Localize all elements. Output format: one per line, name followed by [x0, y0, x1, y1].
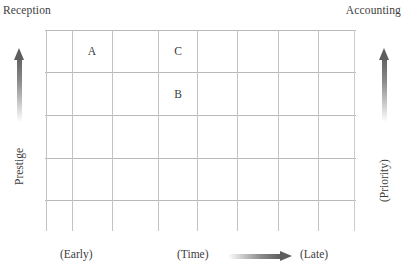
up-arrow-icon-priority: [379, 48, 390, 122]
grid-cell-label-a: A: [72, 44, 112, 58]
grid-line-horizontal: [45, 30, 356, 31]
axis-label-prestige: Prestige: [13, 148, 25, 185]
grid-line-vertical: [318, 30, 319, 231]
axis-label-priority: (Priority): [378, 159, 390, 202]
axis-tick-label-early: (Early): [60, 248, 93, 260]
grid-line-vertical: [72, 30, 73, 231]
grid: A C B: [46, 30, 355, 231]
right-arrow-icon-time: [228, 251, 292, 262]
grid-line-vertical: [354, 30, 355, 231]
grid-line-vertical: [158, 30, 159, 231]
arrow-head: [280, 251, 292, 261]
grid-line-vertical: [46, 30, 47, 231]
axis-label-time: (Time): [177, 248, 209, 260]
grid-cell-label-c: C: [158, 44, 198, 58]
grid-line-horizontal: [45, 115, 356, 116]
grid-line-horizontal: [45, 200, 356, 201]
arrow-head: [379, 48, 389, 60]
diagram-canvas: Reception Accounting A C B Prestige (Pri…: [0, 0, 404, 270]
grid-line-vertical: [197, 30, 198, 231]
grid-line-horizontal: [45, 158, 356, 159]
corner-label-reception: Reception: [3, 4, 51, 16]
arrow-shaft: [228, 254, 280, 259]
grid-line-horizontal: [45, 72, 356, 73]
corner-label-accounting: Accounting: [346, 4, 401, 16]
grid-line-vertical: [237, 30, 238, 231]
up-arrow-icon-prestige: [14, 48, 25, 122]
arrow-shaft: [382, 59, 387, 122]
grid-cell-label-b: B: [158, 87, 198, 101]
arrow-head: [14, 48, 24, 60]
axis-tick-label-late: (Late): [300, 248, 328, 260]
grid-line-vertical: [278, 30, 279, 231]
arrow-shaft: [17, 59, 22, 122]
grid-line-vertical: [112, 30, 113, 231]
